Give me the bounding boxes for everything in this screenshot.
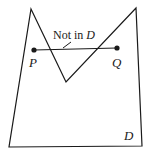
segment-pq <box>34 48 117 50</box>
label-q: Q <box>112 55 122 70</box>
annotation-leader-line <box>63 42 71 48</box>
label-region-d: D <box>123 128 134 143</box>
point-p-dot <box>31 47 36 52</box>
annotation-not-in-d: Not in D <box>53 28 95 42</box>
region-diagram: Not in D P Q D <box>0 0 146 160</box>
label-p: P <box>28 55 37 70</box>
point-q-dot <box>114 45 119 50</box>
